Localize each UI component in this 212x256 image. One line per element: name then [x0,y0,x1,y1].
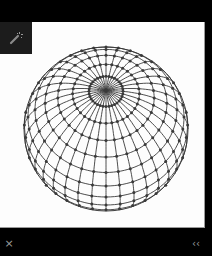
collapse-button[interactable]: ‹‹ [190,238,202,250]
bottom-bar: × ‹‹ [0,229,212,256]
image-caption [18,239,178,249]
image-caption-sub [4,249,64,255]
magic-wand-icon [8,30,24,46]
chevron-double-left-icon: ‹‹ [192,238,200,249]
top-bar [0,0,212,22]
magic-wand-tool-button[interactable] [0,22,32,54]
close-button[interactable]: × [4,239,14,249]
